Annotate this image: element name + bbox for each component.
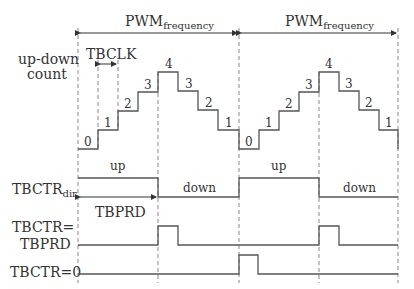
tbctr-eq-tbprd-waveform (78, 226, 398, 245)
tbclk-label: TBCLK (86, 46, 137, 62)
svg-text:2: 2 (285, 97, 293, 111)
svg-text:1: 1 (265, 116, 273, 130)
diagram-svg: PWMfrequency PWMfrequency up-down count … (0, 0, 414, 289)
svg-text:0: 0 (245, 135, 253, 149)
svg-text:3: 3 (345, 77, 353, 91)
updown-label-1: up-down (18, 51, 79, 67)
svg-text:0: 0 (84, 135, 92, 149)
pwm-frequency-label-2: PWMfrequency (285, 13, 374, 31)
tbctr-eq-tbprd-label-1: TBCTR= (12, 219, 74, 235)
svg-text:3: 3 (185, 77, 193, 91)
up-label-1: up (110, 159, 126, 173)
tbctr-eq-zero-label: TBCTR=0 (10, 264, 81, 280)
pwm-frequency-arrows: PWMfrequency PWMfrequency (80, 13, 396, 33)
up-label-2: up (271, 159, 287, 173)
timing-diagram: PWMfrequency PWMfrequency up-down count … (0, 0, 414, 289)
svg-text:1: 1 (104, 116, 112, 130)
svg-text:1: 1 (385, 116, 393, 130)
count-values: 0 1 2 3 4 3 2 1 0 1 2 3 4 3 2 1 (84, 57, 393, 149)
svg-text:2: 2 (124, 97, 132, 111)
pwm-frequency-label-1: PWMfrequency (125, 13, 214, 31)
svg-text:1: 1 (225, 116, 233, 130)
tbprd-label: TBPRD (95, 204, 146, 220)
down-label-1: down (183, 181, 216, 195)
tbctr-eq-tbprd-label-2: TBPRD (20, 236, 71, 252)
svg-text:3: 3 (305, 78, 313, 92)
svg-text:4: 4 (165, 57, 173, 71)
svg-text:2: 2 (205, 96, 213, 110)
svg-text:3: 3 (144, 78, 152, 92)
svg-text:2: 2 (365, 96, 373, 110)
tbctr-eq-zero-waveform (78, 255, 398, 274)
updown-label-2: count (27, 66, 67, 82)
tbctr-dir-label: TBCTRdir (12, 181, 77, 199)
svg-text:4: 4 (325, 57, 333, 71)
down-label-2: down (343, 181, 376, 195)
